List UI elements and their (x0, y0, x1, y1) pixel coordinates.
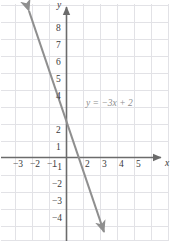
equation-annotation: y = −3x + 2 (86, 99, 133, 109)
y-tick-label: 5 (56, 75, 61, 85)
coordinate-plane-graph: y x −3 −2 −1 2 3 4 5 8 7 6 5 4 2 1 −1 −2… (0, 0, 170, 243)
y-tick-label: 7 (56, 41, 61, 51)
x-tick-label: 3 (102, 160, 107, 170)
x-tick-label: 4 (119, 160, 124, 170)
y-tick-label: 2 (56, 126, 61, 136)
plot-background (0, 0, 170, 243)
x-tick-label: −3 (13, 160, 23, 170)
x-tick-label: −2 (30, 160, 40, 170)
y-tick-label: 1 (56, 143, 61, 153)
x-axis-label: x (165, 159, 169, 169)
y-tick-label: 6 (56, 58, 61, 68)
y-tick-label: 8 (56, 24, 61, 34)
plot-canvas (0, 0, 170, 243)
x-tick-label: 2 (85, 160, 90, 170)
y-tick-label: 4 (56, 92, 61, 102)
y-tick-label: −4 (52, 214, 62, 224)
y-axis-label: y (57, 1, 61, 11)
y-tick-label: −2 (52, 180, 62, 190)
x-tick-label: 5 (136, 160, 141, 170)
y-tick-label: −3 (52, 197, 62, 207)
y-tick-label: −1 (52, 163, 62, 173)
